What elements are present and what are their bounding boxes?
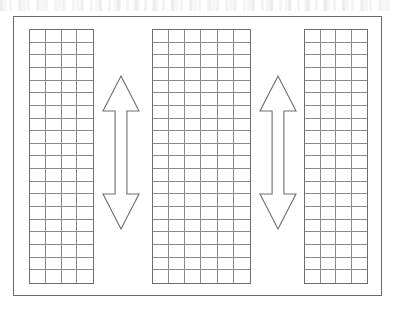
grid-cell <box>169 232 185 245</box>
grid-cell <box>77 258 93 271</box>
grid-cell <box>234 245 250 258</box>
grid-cell <box>234 182 250 195</box>
grid-cell <box>321 81 337 94</box>
grid-cell <box>305 232 321 245</box>
grid-cell <box>336 232 352 245</box>
grid-panel-middle <box>152 29 251 284</box>
grid-cell <box>336 55 352 68</box>
grid-cell <box>234 207 250 220</box>
grid-cell <box>234 220 250 233</box>
grid-cell <box>234 30 250 43</box>
grid-cell <box>62 258 78 271</box>
grid-cell <box>321 258 337 271</box>
grid-cell <box>218 106 234 119</box>
grid-cell <box>336 245 352 258</box>
grid-cell <box>46 68 62 81</box>
grid-cell <box>218 207 234 220</box>
grid-cell <box>46 232 62 245</box>
grid-cell <box>201 194 217 207</box>
grid-cell <box>30 55 46 68</box>
grid-cell <box>201 169 217 182</box>
grid-cell <box>185 156 201 169</box>
grid-cell <box>352 144 368 157</box>
grid-cell <box>62 207 78 220</box>
grid-cell <box>352 93 368 106</box>
grid-cell <box>336 207 352 220</box>
grid-cell <box>77 182 93 195</box>
grid-cell <box>321 220 337 233</box>
grid-cell <box>62 156 78 169</box>
grid-cell <box>77 194 93 207</box>
grid-cell <box>305 30 321 43</box>
diagram-canvas <box>0 0 395 310</box>
grid-cell <box>336 106 352 119</box>
grid-cell <box>185 81 201 94</box>
grid-cell <box>336 220 352 233</box>
grid-cell <box>218 232 234 245</box>
grid-cell <box>185 68 201 81</box>
grid-cell <box>169 220 185 233</box>
grid-cell <box>305 207 321 220</box>
grid-cell <box>218 43 234 56</box>
grid-cell <box>62 270 78 283</box>
grid-cell <box>234 169 250 182</box>
grid-cell <box>46 182 62 195</box>
grid-cell <box>201 81 217 94</box>
grid-cell <box>46 131 62 144</box>
grid-cell <box>77 106 93 119</box>
grid-cell <box>218 131 234 144</box>
grid-cell <box>321 156 337 169</box>
grid-cell <box>153 270 169 283</box>
grid-cell <box>336 131 352 144</box>
grid-cell <box>218 81 234 94</box>
grid-cell <box>352 119 368 132</box>
grid-cell <box>352 207 368 220</box>
grid-cell <box>30 30 46 43</box>
grid-cell <box>153 30 169 43</box>
grid-cell <box>185 194 201 207</box>
grid-cell <box>336 270 352 283</box>
grid-cell <box>153 194 169 207</box>
grid-cell <box>352 30 368 43</box>
grid-cell <box>185 131 201 144</box>
grid-cell <box>352 55 368 68</box>
grid-cell <box>234 81 250 94</box>
grid-cell <box>305 119 321 132</box>
grid-cell <box>336 93 352 106</box>
grid-cell <box>77 220 93 233</box>
grid-cell <box>234 106 250 119</box>
grid-cell <box>234 144 250 157</box>
grid-cell <box>62 131 78 144</box>
grid-cell <box>305 220 321 233</box>
grid-cell <box>77 93 93 106</box>
grid-cell <box>169 93 185 106</box>
grid-cell <box>218 93 234 106</box>
grid-cell <box>153 68 169 81</box>
grid-cell <box>201 258 217 271</box>
grid-cell <box>352 81 368 94</box>
grid-cell <box>185 43 201 56</box>
grid-cell <box>352 68 368 81</box>
grid-cell <box>153 55 169 68</box>
grid-cell <box>153 207 169 220</box>
grid-cell <box>321 232 337 245</box>
grid-cell <box>218 220 234 233</box>
grid-cell <box>321 207 337 220</box>
grid-cell <box>153 182 169 195</box>
grid-cell <box>218 55 234 68</box>
grid-cell <box>352 182 368 195</box>
grid-cell <box>201 270 217 283</box>
grid-cell <box>321 119 337 132</box>
grid-cell <box>201 182 217 195</box>
grid-cell <box>218 245 234 258</box>
grid-cell <box>201 30 217 43</box>
grid-cell <box>30 43 46 56</box>
grid-cell <box>234 93 250 106</box>
grid-cell <box>30 220 46 233</box>
grid-cell <box>30 194 46 207</box>
grid-cell <box>77 81 93 94</box>
grid-cell <box>352 194 368 207</box>
grid-cell <box>201 207 217 220</box>
grid-cell <box>169 106 185 119</box>
grid-cell <box>321 194 337 207</box>
